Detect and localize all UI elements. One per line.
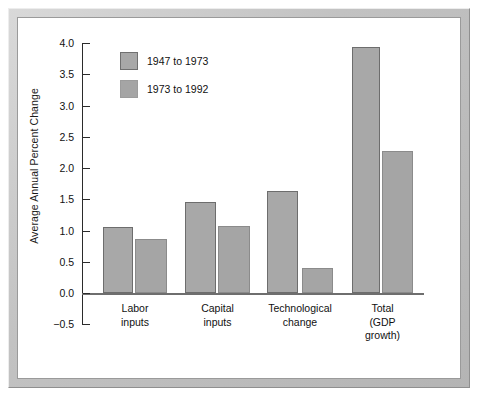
y-axis-tick-label: 3.5 [40, 68, 74, 80]
legend-color-swatch [120, 80, 138, 98]
y-axis-tick-label: 1.0 [40, 225, 74, 237]
y-axis-tick-mark [83, 74, 90, 75]
y-axis-tick-label: 0.0 [40, 287, 74, 299]
y-axis-tick-mark [83, 106, 90, 107]
y-axis-tick-mark [83, 168, 90, 169]
y-axis-tick-label: 4.0 [40, 37, 74, 49]
bar-chart: Average Annual Percent Change 4.03.53.02… [0, 0, 478, 396]
y-axis-tick-mark [83, 43, 90, 44]
y-axis-tick-label: −0.5 [40, 318, 74, 330]
y-axis-tick-mark [83, 231, 90, 232]
zero-baseline [82, 293, 424, 295]
bar [135, 239, 167, 293]
y-axis-tick-mark [83, 262, 90, 263]
y-axis-tick-mark [83, 137, 90, 138]
bar [103, 227, 133, 293]
bar [267, 191, 298, 294]
y-axis-tick-label: 0.5 [40, 256, 74, 268]
legend-item: 1947 to 1973 [120, 52, 208, 70]
legend-label: 1947 to 1973 [147, 55, 208, 67]
y-axis-tick-mark [83, 199, 90, 200]
bar [218, 226, 250, 293]
legend-label: 1973 to 1992 [147, 83, 208, 95]
y-axis-tick-mark [83, 293, 90, 294]
y-axis-title: Average Annual Percent Change [28, 66, 40, 266]
category-label-line: Total [323, 302, 443, 316]
bar [352, 47, 380, 293]
bar [382, 151, 413, 294]
bar [302, 268, 333, 293]
y-axis-line [82, 43, 83, 325]
legend-color-swatch [120, 52, 138, 70]
category-label-line: (GDP [323, 316, 443, 330]
bar [185, 202, 216, 293]
y-axis-tick-label: 2.0 [40, 162, 74, 174]
category-label-line: growth) [323, 329, 443, 343]
y-axis-tick-label: 2.5 [40, 131, 74, 143]
x-axis-category-label: Total(GDPgrowth) [323, 302, 443, 343]
y-axis-tick-label: 1.5 [40, 193, 74, 205]
legend-item: 1973 to 1992 [120, 80, 208, 98]
y-axis-tick-label: 3.0 [40, 100, 74, 112]
